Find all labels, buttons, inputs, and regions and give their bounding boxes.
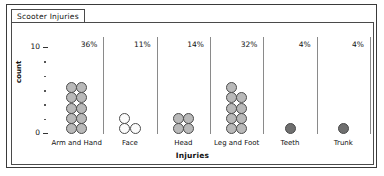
panel-separator <box>317 37 318 134</box>
data-dot <box>226 92 237 103</box>
data-dot <box>338 123 349 134</box>
x-category-label: Trunk <box>317 139 370 147</box>
panel-percent-label: 14% <box>157 40 204 49</box>
data-dot <box>76 92 87 103</box>
x-category-label: Head <box>157 139 210 147</box>
data-dot <box>119 113 130 124</box>
data-dot <box>173 113 184 124</box>
tab-scooter-injuries[interactable]: Scooter Injuries <box>11 9 85 22</box>
data-dot <box>66 123 77 134</box>
data-dot <box>285 123 296 134</box>
tab-strip: Scooter Injuries <box>11 9 374 23</box>
data-dot <box>183 123 194 134</box>
data-dot <box>226 123 237 134</box>
data-dot <box>66 113 77 124</box>
data-dot <box>236 113 247 124</box>
application-window: Scooter Injuries count 100 36%Arm and Ha… <box>6 4 377 168</box>
x-category-label: Teeth <box>263 139 316 147</box>
panel-separator <box>263 37 264 134</box>
x-category-label: Leg and Foot <box>210 139 263 147</box>
panel-percent-label: 32% <box>210 40 257 49</box>
y-minor-tick-mark <box>44 90 46 92</box>
data-dot <box>173 123 184 134</box>
y-minor-tick-mark <box>44 119 46 121</box>
data-dot <box>226 113 237 124</box>
data-dot <box>236 103 247 114</box>
data-dot <box>76 113 87 124</box>
data-dot <box>236 123 247 134</box>
x-category-label: Arm and Hand <box>50 139 103 147</box>
y-minor-tick-mark <box>44 61 46 63</box>
data-dot <box>130 123 141 134</box>
panel-separator <box>157 37 158 134</box>
data-dot <box>226 103 237 114</box>
data-dot <box>66 92 77 103</box>
data-dot <box>119 123 130 134</box>
y-tick-mark <box>43 47 48 48</box>
y-axis-title: count <box>15 71 23 83</box>
y-tick-label: 10 <box>26 42 40 51</box>
dot-plot-chart: count 100 36%Arm and Hand11%Face14%Head3… <box>12 23 373 164</box>
tab-label: Scooter Injuries <box>17 12 79 21</box>
data-dot <box>183 113 194 124</box>
panel-percent-label: 36% <box>50 40 97 49</box>
data-dot <box>226 82 237 93</box>
data-dot <box>236 92 247 103</box>
panel-percent-label: 11% <box>103 40 150 49</box>
panel-separator <box>210 37 211 134</box>
y-tick-label: 0 <box>26 128 40 137</box>
chart-content-panel: count 100 36%Arm and Hand11%Face14%Head3… <box>11 22 374 165</box>
data-dot <box>66 103 77 114</box>
data-dot <box>76 82 87 93</box>
data-dot <box>76 103 87 114</box>
x-category-label: Face <box>103 139 156 147</box>
x-axis-title: Injuries <box>12 151 373 160</box>
y-tick-mark <box>43 133 48 134</box>
panel-separator <box>103 37 104 134</box>
panel-percent-label: 4% <box>263 40 310 49</box>
panel-separator <box>370 37 371 134</box>
y-minor-tick-mark <box>44 76 46 78</box>
data-dot <box>66 82 77 93</box>
y-minor-tick-mark <box>44 104 46 106</box>
data-dot <box>76 123 87 134</box>
panel-percent-label: 4% <box>317 40 364 49</box>
